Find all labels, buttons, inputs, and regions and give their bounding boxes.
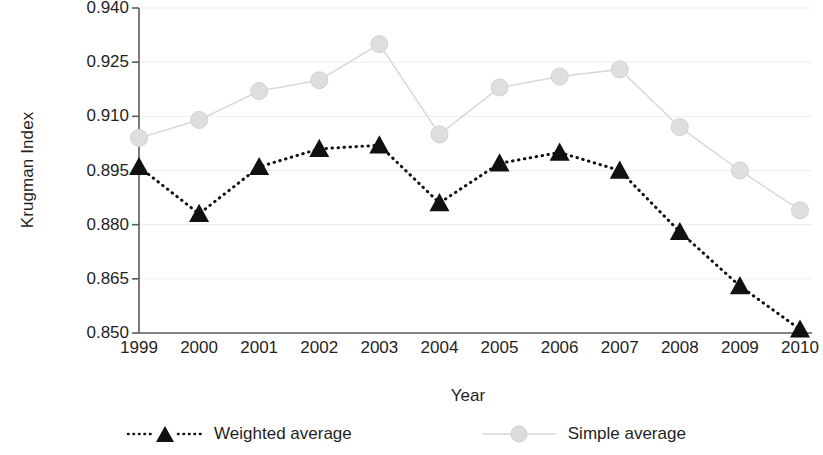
x-axis-tick-label: 2009 — [709, 339, 771, 356]
y-axis-tick-label: 0.925 — [43, 53, 129, 70]
x-axis-tick-label: 2000 — [168, 339, 230, 356]
data-point-simple-average — [251, 83, 268, 100]
x-axis-tick-label: 2001 — [228, 339, 290, 356]
legend-swatch-weighted-average — [126, 424, 204, 444]
data-point-weighted-average — [369, 135, 389, 153]
y-axis-tick-label: 0.880 — [43, 216, 129, 233]
chart-legend: Weighted average Simple average — [0, 424, 812, 444]
series-line-simple-average — [139, 44, 800, 210]
legend-label-simple-average: Simple average — [568, 424, 686, 444]
y-axis-title: Krugman Index — [18, 50, 38, 290]
data-point-weighted-average — [610, 161, 630, 179]
legend-item-simple-average: Simple average — [480, 424, 686, 444]
data-point-weighted-average — [129, 157, 149, 175]
data-point-simple-average — [371, 36, 388, 53]
data-point-simple-average — [551, 68, 568, 85]
data-point-simple-average — [131, 130, 148, 147]
data-point-weighted-average — [790, 319, 810, 337]
y-axis-tick-label: 0.910 — [43, 107, 129, 124]
x-axis-tick-label: 2006 — [529, 339, 591, 356]
legend-swatch-simple-average — [480, 424, 558, 444]
data-point-simple-average — [311, 72, 328, 89]
x-axis-tick-label: 2008 — [649, 339, 711, 356]
data-point-simple-average — [491, 79, 508, 96]
data-point-simple-average — [792, 202, 809, 219]
x-axis-tick-label: 2005 — [469, 339, 531, 356]
x-axis-tick-label: 2010 — [769, 339, 823, 356]
data-point-weighted-average — [249, 157, 269, 175]
legend-label-weighted-average: Weighted average — [214, 424, 352, 444]
data-point-simple-average — [611, 61, 628, 78]
legend-item-weighted-average: Weighted average — [126, 424, 352, 444]
y-axis-tick-label: 0.940 — [43, 0, 129, 16]
data-point-simple-average — [731, 162, 748, 179]
data-point-simple-average — [191, 111, 208, 128]
x-axis-tick-label: 2002 — [288, 339, 350, 356]
y-axis-tick-label: 0.895 — [43, 162, 129, 179]
data-point-simple-average — [671, 119, 688, 136]
y-axis-tick-label: 0.865 — [43, 270, 129, 287]
data-point-simple-average — [431, 126, 448, 143]
data-point-weighted-average — [550, 142, 570, 160]
x-axis-tick-label: 2003 — [348, 339, 410, 356]
x-axis-title: Year — [138, 386, 798, 406]
x-axis-tick-label: 1999 — [108, 339, 170, 356]
x-axis-tick-label: 2004 — [408, 339, 470, 356]
series-line-weighted-average — [139, 145, 800, 329]
x-axis-tick-label: 2007 — [589, 339, 651, 356]
